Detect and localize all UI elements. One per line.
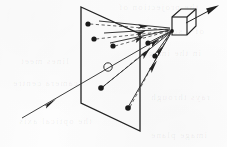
scene-point [110, 43, 115, 48]
scene-point [145, 40, 150, 45]
principal-point-circle [104, 63, 112, 71]
figure-container: the projection of of a scene point in th… [0, 0, 227, 147]
scene-point [98, 85, 104, 91]
dashed-ray-group [90, 24, 170, 107]
ray-arrowhead [141, 49, 150, 60]
projection-diagram [0, 0, 227, 147]
cube-top-right-edge [187, 9, 196, 17]
scene-point [152, 53, 157, 58]
projection-ray [99, 21, 170, 28]
exit-arrowhead [206, 5, 219, 14]
scene-point [85, 21, 90, 26]
center-of-projection [170, 29, 174, 33]
solid-ray-group [99, 21, 171, 109]
camera-cube [172, 9, 196, 35]
scene-point [91, 36, 96, 41]
ray-arrowhead [149, 61, 157, 74]
scene-point [125, 105, 131, 111]
projection-ray [100, 32, 171, 89]
